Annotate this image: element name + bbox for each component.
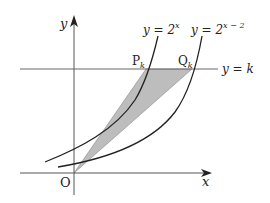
x-axis-label: x [202,174,210,189]
curve-label-2-pow-x-minus-2: y = 2x − 2 [190,21,245,37]
point-label-pk: Pk [132,54,145,70]
line-label-y-equals-k: y = k [221,62,254,76]
curve-label-2-pow-x: y = 2x [142,21,180,37]
shaded-triangle-opq [74,69,192,173]
diagram-canvas: y x O y = 2x y = 2x − 2 y = k Pk Qk [0,0,270,203]
y-axis-label: y [59,16,68,31]
point-label-qk: Qk [178,54,193,70]
origin-label: O [60,175,71,190]
